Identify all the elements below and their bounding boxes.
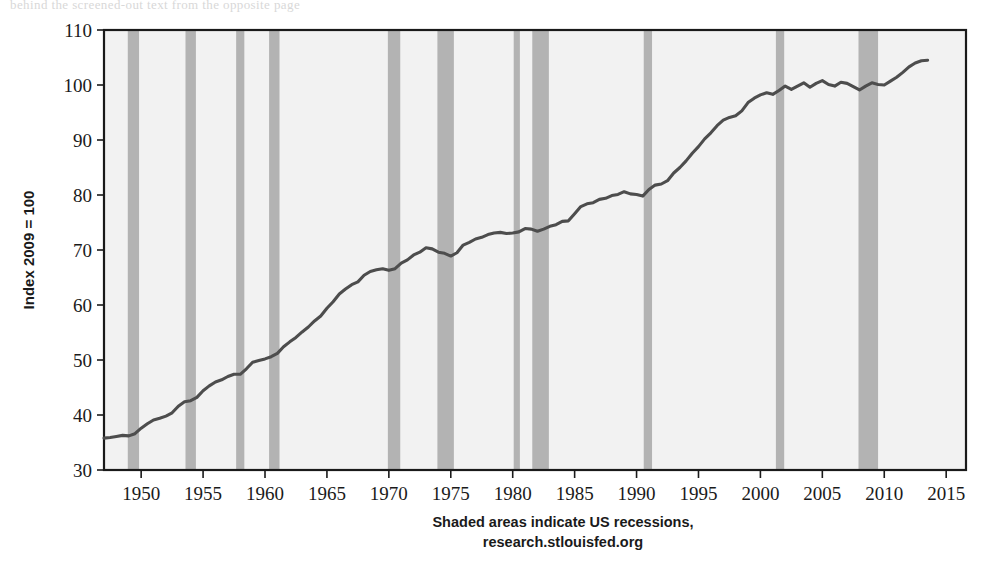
y-tick-label: 60 <box>73 295 92 316</box>
x-tick-label: 1975 <box>432 483 470 504</box>
recession-band <box>514 30 520 470</box>
recession-band <box>185 30 195 470</box>
recession-band <box>269 30 279 470</box>
y-tick-label: 100 <box>64 75 93 96</box>
y-tick-label: 30 <box>73 460 92 481</box>
x-tick-label: 2010 <box>865 483 903 504</box>
recession-band <box>388 30 400 470</box>
x-tick-label: 1995 <box>679 483 717 504</box>
x-tick-label: 1970 <box>370 483 408 504</box>
y-tick-label: 80 <box>73 185 92 206</box>
recession-band <box>437 30 453 470</box>
x-tick-label: 2000 <box>741 483 779 504</box>
y-tick-label: 40 <box>73 405 92 426</box>
y-axis-label: Index 2009 = 100 <box>20 191 37 310</box>
x-tick-label: 1990 <box>618 483 656 504</box>
x-tick-label: 1965 <box>308 483 346 504</box>
chart-caption-line: Shaded areas indicate US recessions, <box>432 514 693 530</box>
recession-band <box>776 30 784 470</box>
x-tick-label: 1980 <box>494 483 532 504</box>
recession-band <box>128 30 139 470</box>
x-tick-label: 1985 <box>556 483 594 504</box>
y-tick-label: 70 <box>73 240 92 261</box>
y-tick-label: 90 <box>73 130 92 151</box>
x-tick-label: 1950 <box>122 483 160 504</box>
figure-container: behind the screened-out text from the op… <box>0 0 1004 568</box>
x-tick-label: 1960 <box>246 483 284 504</box>
recession-band <box>858 30 878 470</box>
x-tick-label: 1955 <box>184 483 222 504</box>
y-tick-label: 110 <box>64 20 92 41</box>
recession-band <box>532 30 549 470</box>
x-tick-label: 2005 <box>803 483 841 504</box>
x-tick-label: 2015 <box>927 483 965 504</box>
y-tick-label: 50 <box>73 350 92 371</box>
recession-band <box>236 30 244 470</box>
chart-canvas: 3040506070809010011019501955196019651970… <box>0 0 1004 568</box>
recession-band <box>644 30 652 470</box>
chart-caption-line: research.stlouisfed.org <box>483 534 643 550</box>
